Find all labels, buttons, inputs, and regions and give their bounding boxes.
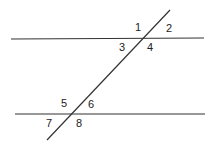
angle-label-7: 7 (46, 117, 52, 129)
angle-label-6: 6 (88, 98, 94, 110)
angle-label-5: 5 (61, 97, 67, 109)
angle-label-1: 1 (135, 21, 141, 33)
parallel-lines-diagram: 1 2 3 4 5 6 7 8 (0, 0, 213, 145)
angle-label-3: 3 (119, 41, 125, 53)
transversal-line (47, 10, 170, 140)
angle-label-8: 8 (76, 117, 82, 129)
angle-label-4: 4 (147, 41, 153, 53)
top-parallel-line (11, 38, 204, 39)
angle-label-2: 2 (166, 22, 172, 34)
